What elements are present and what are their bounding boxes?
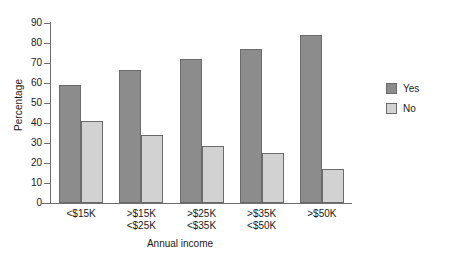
x-axis-title: Annual income: [0, 238, 360, 249]
y-axis-tick-label: 30: [2, 138, 42, 148]
y-axis-tick: [44, 143, 51, 144]
bar: [141, 135, 163, 203]
bar: [202, 146, 224, 203]
y-axis-tick: [44, 23, 51, 24]
y-axis-tick-label: 70: [2, 58, 42, 68]
y-axis-tick-label: 50: [2, 98, 42, 108]
y-axis-tick-label: 60: [2, 78, 42, 88]
legend-item-label: Yes: [403, 83, 419, 94]
legend-swatch-icon: [386, 83, 397, 94]
y-axis-tick: [44, 83, 51, 84]
bar: [59, 85, 81, 203]
y-axis-tick-label: 90: [2, 18, 42, 28]
bar: [300, 35, 322, 203]
y-axis-tick: [44, 43, 51, 44]
y-axis-tick: [44, 103, 51, 104]
legend-item-label: No: [403, 103, 416, 114]
bar: [119, 70, 141, 203]
y-axis-tick-label: 40: [2, 118, 42, 128]
bar: [240, 49, 262, 203]
legend-item: No: [386, 100, 419, 116]
y-axis-tick: [44, 183, 51, 184]
chart-legend: YesNo: [386, 80, 419, 120]
bar: [180, 59, 202, 203]
legend-item: Yes: [386, 80, 419, 96]
y-axis-tick: [44, 123, 51, 124]
plot-area: [51, 23, 352, 203]
bar: [81, 121, 103, 203]
y-axis-tick-label: 80: [2, 38, 42, 48]
x-axis-line: [42, 203, 352, 204]
y-axis-tick-label: 0: [2, 198, 42, 208]
y-axis-tick-label: 10: [2, 178, 42, 188]
y-axis-tick-labels: 0102030405060708090: [0, 0, 42, 262]
bar: [262, 153, 284, 203]
y-axis-tick: [44, 203, 51, 204]
bar-chart: Percentage 0102030405060708090 <$15K>$15…: [0, 0, 456, 262]
y-axis-tick: [44, 163, 51, 164]
legend-swatch-icon: [386, 103, 397, 114]
y-axis-tick: [44, 63, 51, 64]
x-axis-tick-label: >$50K: [287, 208, 357, 220]
bar: [322, 169, 344, 203]
y-axis-tick-label: 20: [2, 158, 42, 168]
